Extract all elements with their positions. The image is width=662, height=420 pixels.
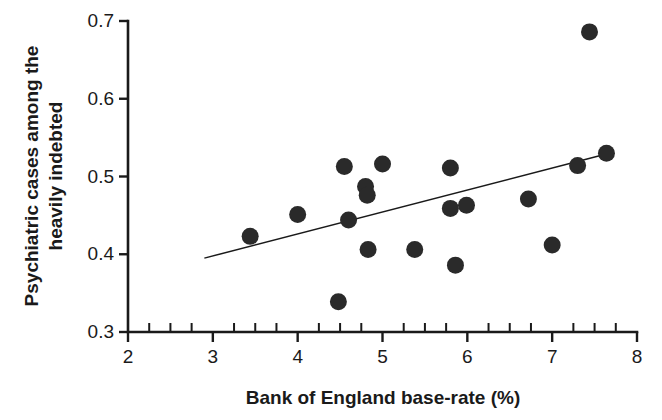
y-axis-ticks xyxy=(119,21,128,332)
x-tick-label: 3 xyxy=(208,346,219,367)
x-tick-label: 2 xyxy=(123,346,134,367)
y-axis-title-line2: heavily indebted xyxy=(45,102,66,251)
scatter-chart-figure: Psychiatric cases among the heavily inde… xyxy=(0,0,662,420)
x-tick-label: 4 xyxy=(292,346,303,367)
data-point xyxy=(598,145,615,162)
x-axis-title: Bank of England base-rate (%) xyxy=(246,387,521,408)
data-point xyxy=(340,212,357,229)
data-point xyxy=(406,241,423,258)
data-point xyxy=(336,158,353,175)
data-point xyxy=(330,293,347,310)
x-tick-label: 8 xyxy=(632,346,643,367)
y-tick-label: 0.4 xyxy=(88,243,115,264)
x-axis-minor-ticks xyxy=(149,323,616,332)
data-point xyxy=(569,157,586,174)
data-point xyxy=(374,156,391,173)
x-tick-label: 6 xyxy=(462,346,473,367)
chart-canvas: Psychiatric cases among the heavily inde… xyxy=(0,0,662,420)
data-point xyxy=(359,187,376,204)
x-tick-label: 5 xyxy=(377,346,388,367)
axis-lines xyxy=(128,21,637,332)
y-axis-title: Psychiatric cases among the heavily inde… xyxy=(21,46,66,307)
data-point xyxy=(289,206,306,223)
data-point xyxy=(447,257,464,274)
y-tick-label: 0.3 xyxy=(88,321,114,342)
x-tick-label: 7 xyxy=(547,346,558,367)
x-axis-tick-labels: 2345678 xyxy=(123,346,643,367)
regression-line xyxy=(204,156,600,259)
x-axis-ticks xyxy=(128,332,637,342)
data-point xyxy=(442,200,459,217)
data-point xyxy=(544,236,561,253)
y-axis-tick-labels: 0.30.40.50.60.7 xyxy=(88,10,115,342)
data-point xyxy=(442,159,459,176)
y-axis-title-line1: Psychiatric cases among the xyxy=(21,46,42,307)
trend-line xyxy=(204,156,600,259)
data-point xyxy=(242,228,259,245)
data-point xyxy=(581,23,598,40)
data-point xyxy=(458,197,475,214)
data-point xyxy=(520,191,537,208)
y-tick-label: 0.6 xyxy=(88,88,114,109)
y-tick-label: 0.7 xyxy=(88,10,114,31)
y-tick-label: 0.5 xyxy=(88,166,114,187)
data-point xyxy=(360,241,377,258)
